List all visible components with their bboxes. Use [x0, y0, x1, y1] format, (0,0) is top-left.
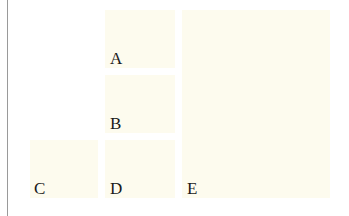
label-c: C — [34, 180, 45, 197]
label-d: D — [110, 180, 122, 197]
label-a: A — [110, 50, 122, 67]
label-e: E — [187, 180, 197, 197]
label-b: B — [110, 115, 121, 132]
box-e — [182, 10, 330, 198]
left-border-line — [7, 0, 8, 216]
